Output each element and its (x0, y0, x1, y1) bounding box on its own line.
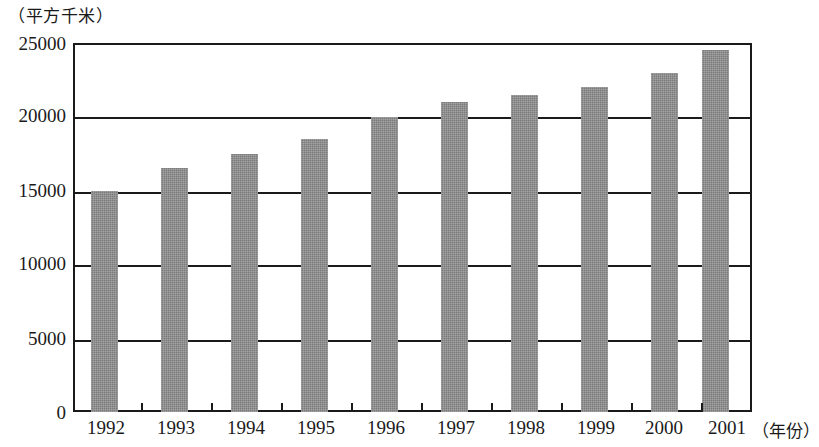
bar-2001 (702, 50, 729, 412)
bar-1998 (511, 95, 538, 412)
bar-2000 (651, 73, 678, 412)
bar-1995 (301, 139, 328, 412)
y-tick-label-20000: 20000 (2, 106, 66, 125)
x-tick-label-2000: 2000 (629, 418, 699, 437)
x-tick-label-1994: 1994 (211, 418, 281, 437)
y-tick-label-10000: 10000 (2, 254, 66, 273)
y-axis-unit-label: （平方千米） (8, 2, 113, 27)
x-tick-7 (561, 403, 563, 412)
x-tick-5 (421, 403, 423, 412)
x-tick-label-1997: 1997 (421, 418, 491, 437)
bar-1993 (161, 168, 188, 412)
x-tick-label-1993: 1993 (141, 418, 211, 437)
bars-layer (73, 43, 752, 412)
bar-1992 (91, 191, 118, 412)
bar-1999 (581, 87, 608, 412)
x-tick-8 (631, 403, 633, 412)
x-tick-9 (701, 403, 703, 412)
x-tick-6 (491, 403, 493, 412)
bar-1994 (231, 154, 258, 412)
y-tick-label-0: 0 (2, 403, 66, 422)
x-tick-1 (141, 403, 143, 412)
y-tick-label-15000: 15000 (2, 181, 66, 200)
x-tick-label-1996: 1996 (351, 418, 421, 437)
x-tick-3 (281, 403, 283, 412)
bar-chart: （平方千米） 25000 20000 15000 10000 5000 0 19… (0, 0, 819, 447)
bar-1996 (371, 117, 398, 412)
x-tick-label-1999: 1999 (561, 418, 631, 437)
x-tick-label-1998: 1998 (491, 418, 561, 437)
y-tick-label-25000: 25000 (2, 34, 66, 53)
x-tick-4 (351, 403, 353, 412)
x-tick-label-1992: 1992 (71, 418, 141, 437)
bar-1997 (441, 102, 468, 412)
x-axis-unit-label: （年份） (752, 417, 819, 442)
x-tick-label-1995: 1995 (281, 418, 351, 437)
y-tick-label-5000: 5000 (2, 329, 66, 348)
x-tick-2 (211, 403, 213, 412)
